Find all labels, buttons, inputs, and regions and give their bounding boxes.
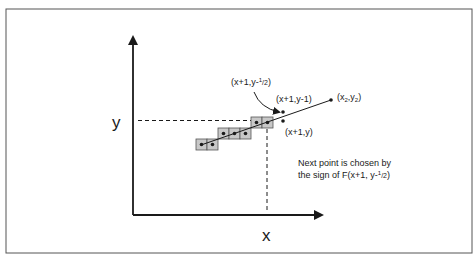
- end-point-label: (x2,y2): [337, 92, 361, 103]
- note-line-1: Next point is chosen by: [298, 158, 392, 168]
- candidate-point-upper: [281, 110, 285, 114]
- midpoint-label: (x+1,y-1/2): [231, 77, 271, 87]
- note-line-2: the sign of F(x+1, y-1/2): [298, 170, 390, 180]
- midpoint-line-diagram: y x (x+1,y-1/2) (x+1,y-1) (x+1,y) (x2,y2…: [0, 0, 476, 262]
- x-axis-label: x: [262, 226, 271, 245]
- upper-point-label: (x+1,y-1): [276, 94, 312, 104]
- candidate-point-lower: [281, 119, 285, 123]
- lower-point-label: (x+1,y): [285, 127, 313, 137]
- end-point: [329, 98, 333, 102]
- y-axis-label: y: [112, 113, 121, 132]
